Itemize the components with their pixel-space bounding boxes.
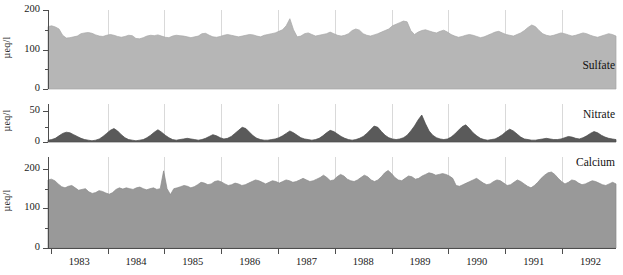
gridline-1984 (108, 10, 109, 89)
x-tick-1989 (392, 249, 393, 254)
y-tick-label-sulfate-200: 200 (6, 3, 40, 14)
x-tick-label-1991: 1991 (505, 256, 562, 267)
panel-plot-sulfate (48, 10, 616, 89)
y-minor-tick-calcium-50 (45, 228, 48, 229)
y-tick-nitrate-50 (43, 111, 48, 112)
x-tick-1985 (164, 249, 165, 254)
x-tick-label-1986: 1986 (221, 256, 278, 267)
x-tick-label-1984: 1984 (108, 256, 165, 267)
y-minor-tick-nitrate-25 (45, 127, 48, 128)
x-axis-spine (48, 248, 616, 249)
series-label-nitrate: Nitrate (583, 108, 615, 120)
gridline-1986 (221, 157, 222, 248)
y-tick-calcium-100 (43, 208, 48, 209)
gridline-1985 (164, 104, 165, 142)
y-axis-title-nitrate: µeq/l (1, 91, 12, 151)
x-tick-label-1989: 1989 (392, 256, 449, 267)
x-tick-label-1990: 1990 (448, 256, 505, 267)
gridline-1990 (448, 104, 449, 142)
y-axis-spine-calcium (48, 157, 49, 248)
panel-plot-nitrate (48, 104, 616, 142)
y-axis-spine-nitrate (48, 104, 49, 142)
gridline-1989 (392, 10, 393, 89)
gridline-1989 (392, 157, 393, 248)
gridline-1990 (448, 157, 449, 248)
gridline-1988 (335, 157, 336, 248)
gridline-1991 (505, 157, 506, 248)
y-tick-label-calcium-0: 0 (6, 241, 40, 252)
x-tick-label-1988: 1988 (335, 256, 392, 267)
gridline-1991 (505, 10, 506, 89)
gridline-1985 (164, 157, 165, 248)
gridline-1986 (221, 104, 222, 142)
x-tick-1984 (108, 249, 109, 254)
stacked-timeseries-figure: 0100200µeq/lSulfate050µeq/lNitrate010020… (0, 0, 623, 275)
y-axis-title-calcium: µeq/l (1, 170, 12, 230)
x-tick-label-1987: 1987 (278, 256, 335, 267)
x-tick-label-1985: 1985 (164, 256, 221, 267)
gridline-1984 (108, 104, 109, 142)
gridline-1985 (164, 10, 165, 89)
x-tick-1987 (278, 249, 279, 254)
x-tick-1990 (448, 249, 449, 254)
y-tick-nitrate-0 (43, 142, 48, 143)
series-label-sulfate: Sulfate (582, 59, 615, 71)
y-tick-sulfate-200 (43, 10, 48, 11)
x-tick-1992 (562, 249, 563, 254)
gridline-1988 (335, 10, 336, 89)
x-tick-1986 (221, 249, 222, 254)
panel-plot-calcium (48, 157, 616, 248)
gridline-1987 (278, 10, 279, 89)
y-minor-tick-sulfate-150 (45, 30, 48, 31)
series-label-calcium: Calcium (576, 156, 615, 168)
gridline-1992 (562, 157, 563, 248)
y-tick-calcium-200 (43, 169, 48, 170)
y-tick-sulfate-0 (43, 89, 48, 90)
gridline-1987 (278, 104, 279, 142)
x-tick-1988 (335, 249, 336, 254)
gridline-1984 (108, 157, 109, 248)
gridline-1991 (505, 104, 506, 142)
x-tick-1991 (505, 249, 506, 254)
gridline-1987 (278, 157, 279, 248)
y-axis-title-sulfate: µeq/l (1, 17, 12, 77)
y-minor-tick-calcium-150 (45, 189, 48, 190)
gridline-1988 (335, 104, 336, 142)
gridline-1989 (392, 104, 393, 142)
y-tick-sulfate-100 (43, 50, 48, 51)
x-tick-label-1983: 1983 (51, 256, 108, 267)
x-tick-1983 (51, 249, 52, 254)
gridline-1992 (562, 104, 563, 142)
gridline-1986 (221, 10, 222, 89)
y-axis-spine-sulfate (48, 10, 49, 89)
gridline-1990 (448, 10, 449, 89)
x-tick-label-1992: 1992 (562, 256, 619, 267)
gridline-1992 (562, 10, 563, 89)
y-minor-tick-sulfate-50 (45, 69, 48, 70)
